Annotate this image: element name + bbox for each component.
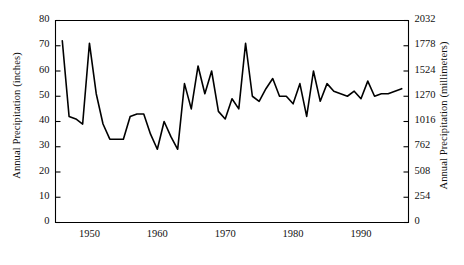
right-axis-ticks [404,21,409,223]
precipitation-chart-figure: Annual Precipitation (inches) Annual Pre… [0,0,464,265]
y-tick-label-left: 70 [20,38,50,49]
y-tick-label-left: 80 [20,13,50,24]
y-tick-label-right: 1016 [415,114,455,125]
x-tick-label: 1960 [137,228,177,239]
axes-frame [56,21,409,223]
y-tick-label-right: 1524 [415,64,455,75]
x-tick-label: 1950 [69,228,109,239]
x-tick-label: 1980 [273,228,313,239]
y-tick-label-left: 30 [20,139,50,150]
precipitation-line [62,41,401,150]
y-tick-label-right: 1270 [415,89,455,100]
y-tick-label-left: 60 [20,64,50,75]
y-tick-label-left: 40 [20,114,50,125]
y-tick-label-right: 254 [415,190,455,201]
left-axis-ticks [56,21,61,223]
y-tick-label-right: 508 [415,165,455,176]
plot-area [0,0,464,265]
y-tick-label-left: 20 [20,165,50,176]
y-tick-label-right: 762 [415,139,455,150]
axis-frame-path [56,21,409,223]
y-tick-label-right: 0 [415,215,455,226]
x-tick-label: 1970 [205,228,245,239]
y-tick-label-right: 2032 [415,13,455,24]
y-tick-label-left: 10 [20,190,50,201]
y-tick-label-left: 0 [20,215,50,226]
y-tick-label-right: 1778 [415,38,455,49]
y-tick-label-left: 50 [20,89,50,100]
x-tick-label: 1990 [341,228,381,239]
